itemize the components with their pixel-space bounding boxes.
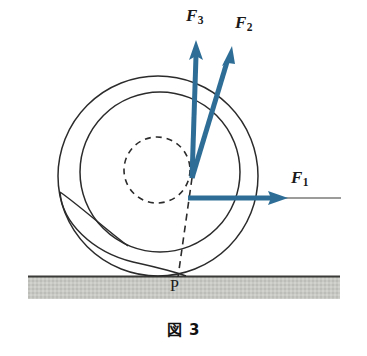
ground-surface [28, 277, 340, 300]
outer-circle [58, 76, 258, 276]
middle-circle [80, 92, 240, 252]
vector-f2-arrow [192, 46, 235, 178]
f1-arrowhead [268, 191, 288, 205]
vector-label-f3: F3 [186, 6, 204, 26]
spiral-arc-inner [60, 192, 128, 246]
ground-hatch-fill [28, 277, 340, 299]
vector-label-f2-subscript: 2 [247, 21, 253, 33]
wheel-circles [58, 76, 258, 276]
physics-diagram-svg [0, 0, 367, 356]
contact-point-label-p: P [170, 277, 179, 295]
f2-arrowhead [222, 46, 235, 66]
inner-dashed-circle [124, 137, 190, 203]
vector-label-f1: F1 [291, 168, 309, 188]
figure-caption: 図 3 [0, 318, 367, 339]
vector-f1-arrow [188, 191, 288, 205]
vector-label-f2: F2 [235, 13, 253, 33]
spiral-arc-group [60, 192, 186, 276]
figure-3-container: F1 F2 F3 P 図 3 [0, 0, 367, 356]
vector-label-f1-symbol: F [291, 168, 302, 187]
vector-label-f3-symbol: F [186, 6, 197, 25]
spiral-arc-outer [60, 192, 186, 276]
vector-label-f3-subscript: 3 [198, 14, 204, 26]
vector-label-f1-subscript: 1 [303, 176, 309, 188]
vector-label-f2-symbol: F [235, 13, 246, 32]
